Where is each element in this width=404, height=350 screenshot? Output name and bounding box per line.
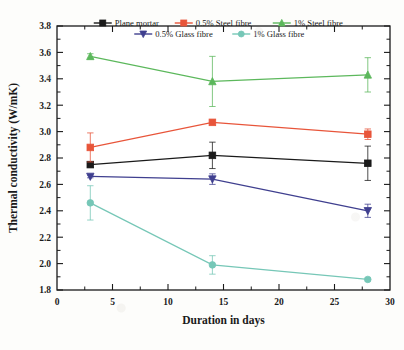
- legend-label: 0.5% Glass fibre: [155, 29, 213, 39]
- x-tick-label: 20: [274, 297, 284, 307]
- plot-frame: [57, 26, 390, 290]
- y-tick-label: 3.4: [39, 74, 51, 84]
- y-tick-label: 2.4: [39, 206, 51, 216]
- y-tick-label: 2.6: [39, 180, 51, 190]
- data-point-marker: [87, 200, 94, 207]
- y-tick-label: 3.8: [39, 21, 51, 31]
- data-point-marker: [365, 131, 372, 138]
- y-axis-title: Thermal conductivity (W/mK): [7, 83, 20, 233]
- legend-label: 1% Steel fibre: [294, 18, 343, 28]
- x-axis-title: Duration in days: [182, 314, 265, 327]
- y-tick-label: 1.8: [39, 285, 51, 295]
- x-tick-label: 25: [330, 297, 340, 307]
- x-tick-label: 0: [55, 297, 60, 307]
- y-tick-label: 3.0: [39, 127, 51, 137]
- data-point-marker: [209, 262, 216, 269]
- data-point-marker: [365, 276, 372, 283]
- x-tick-label: 10: [163, 297, 173, 307]
- legend-label: 0.5% Steel fibre: [196, 18, 252, 28]
- legend-label: Plane mortar: [115, 18, 159, 28]
- legend-marker: [100, 20, 106, 26]
- x-tick-label: 15: [219, 297, 229, 307]
- x-tick-label: 5: [110, 297, 115, 307]
- y-tick-label: 2.2: [39, 233, 51, 243]
- thermal-conductivity-line-chart: 0510152025301.82.02.22.42.62.83.03.23.43…: [0, 0, 404, 350]
- legend-label: 1% Glass fibre: [253, 29, 304, 39]
- legend-marker: [181, 20, 187, 26]
- y-tick-label: 3.2: [39, 101, 51, 111]
- y-tick-label: 2.8: [39, 153, 51, 163]
- chart-figure: 0510152025301.82.02.22.42.62.83.03.23.43…: [0, 0, 404, 350]
- data-point-marker: [209, 119, 216, 126]
- data-point-marker: [365, 160, 372, 167]
- x-tick-label: 30: [385, 297, 395, 307]
- y-tick-label: 2.0: [39, 259, 51, 269]
- data-point-marker: [209, 152, 216, 159]
- data-point-marker: [87, 144, 94, 151]
- y-tick-label: 3.6: [39, 48, 51, 58]
- legend-marker: [238, 31, 244, 37]
